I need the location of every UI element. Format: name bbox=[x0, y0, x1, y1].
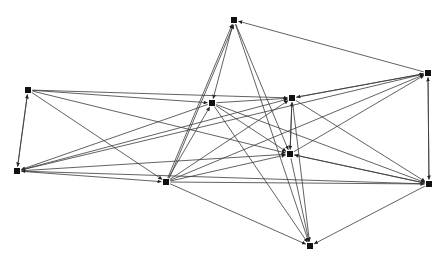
node-C[interactable] bbox=[25, 87, 31, 93]
edge-A-J bbox=[235, 24, 308, 241]
edge-G-D bbox=[168, 107, 209, 178]
edge-C-G bbox=[32, 92, 163, 179]
edge-G-A bbox=[169, 25, 234, 179]
edge-H-J bbox=[291, 158, 309, 241]
edge-D-F bbox=[21, 104, 208, 169]
node-A[interactable] bbox=[231, 17, 237, 23]
node-E[interactable] bbox=[289, 95, 295, 101]
edge-G-B bbox=[170, 75, 424, 181]
node-H[interactable] bbox=[287, 151, 293, 157]
edge-E-B bbox=[296, 74, 423, 97]
edge-C-H bbox=[32, 91, 285, 153]
network-graph bbox=[0, 0, 448, 263]
edge-G-J bbox=[170, 184, 306, 244]
node-D[interactable] bbox=[209, 100, 215, 106]
edge-F-H bbox=[21, 154, 285, 170]
node-G[interactable] bbox=[163, 179, 169, 185]
edge-H-E bbox=[290, 102, 292, 149]
node-B[interactable] bbox=[425, 70, 431, 76]
edge-A-H bbox=[236, 24, 289, 150]
node-F[interactable] bbox=[14, 168, 20, 174]
edge-D-J bbox=[215, 107, 308, 243]
nodes-layer bbox=[14, 17, 432, 249]
edge-I-J bbox=[314, 186, 425, 244]
edge-I-F bbox=[21, 171, 424, 184]
edges-layer bbox=[18, 21, 429, 244]
edge-I-B bbox=[428, 77, 429, 179]
edge-B-A bbox=[238, 21, 423, 72]
edge-C-D bbox=[32, 90, 207, 102]
edge-G-A bbox=[168, 24, 233, 178]
edge-F-C bbox=[18, 94, 28, 166]
edge-A-D bbox=[213, 24, 233, 98]
edge-F-G bbox=[21, 171, 161, 181]
edge-F-B bbox=[21, 74, 423, 170]
node-J[interactable] bbox=[307, 243, 313, 249]
edge-F-E bbox=[21, 99, 287, 170]
node-I[interactable] bbox=[426, 181, 432, 187]
edge-C-E bbox=[32, 90, 287, 98]
